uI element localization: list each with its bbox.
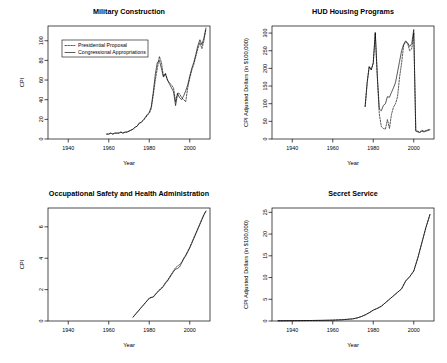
x-tick-label: 1960 — [103, 145, 115, 151]
y-tick-label: 300 — [261, 29, 267, 38]
panel-title: HUD Housing Programs — [312, 7, 394, 16]
series-line-presidential-proposal — [278, 214, 430, 320]
y-tick-label: 6 — [38, 225, 44, 228]
y-tick-label: 200 — [261, 64, 267, 73]
panel-title: Military Construction — [93, 7, 165, 16]
y-tick-label: 0 — [38, 138, 44, 141]
y-tick-label: 0 — [38, 319, 44, 322]
x-axis-label: Year — [347, 160, 359, 166]
y-tick-label: 150 — [261, 82, 267, 91]
y-tick-label: 250 — [261, 46, 267, 55]
y-tick-label: 4 — [38, 256, 44, 259]
x-tick-label: 2000 — [184, 145, 196, 151]
y-tick-label: 25 — [261, 209, 267, 215]
y-tick-label: 80 — [38, 57, 44, 63]
chart-military-construction: Military Construction1940196019802000020… — [0, 0, 224, 182]
panel-title: Occupational Safety and Health Administr… — [49, 189, 209, 198]
x-tick-label: 1960 — [326, 327, 338, 333]
panel-secret-service: Secret Service19401960198020000510152025… — [224, 182, 447, 363]
legend-label: Congressional Appropriations — [78, 49, 146, 55]
plot-area — [48, 208, 210, 321]
panel-military-construction: Military Construction1940196019802000020… — [0, 0, 224, 182]
y-tick-label: 10 — [261, 274, 267, 280]
x-tick-label: 1940 — [62, 145, 74, 151]
y-axis-label: CPI — [19, 77, 25, 87]
series-line-congressional-appropriations — [133, 211, 206, 317]
chart-hud-housing-programs: HUD Housing Programs19401960198020000501… — [224, 0, 447, 182]
series-line-congressional-appropriations — [365, 30, 430, 133]
x-tick-label: 1980 — [367, 327, 379, 333]
y-tick-label: 100 — [261, 99, 267, 108]
x-tick-label: 1980 — [367, 145, 379, 151]
y-tick-label: 40 — [38, 97, 44, 103]
plot-area — [272, 26, 434, 139]
y-tick-label: 20 — [261, 231, 267, 237]
panel-hud-housing-programs: HUD Housing Programs19401960198020000501… — [224, 0, 447, 182]
x-tick-label: 1940 — [286, 327, 298, 333]
legend-label: Presidential Proposal — [78, 42, 127, 48]
series-line-congressional-appropriations — [278, 214, 430, 320]
x-tick-label: 2000 — [407, 145, 419, 151]
y-tick-label: 5 — [261, 297, 267, 300]
panel-title: Secret Service — [328, 189, 378, 198]
plot-area — [272, 208, 434, 321]
x-tick-label: 1980 — [143, 327, 155, 333]
series-line-presidential-proposal — [365, 33, 430, 132]
x-tick-label: 2000 — [407, 327, 419, 333]
y-tick-label: 60 — [38, 77, 44, 83]
panel-osha: Occupational Safety and Health Administr… — [0, 182, 224, 363]
figure-panel-grid: Military Construction1940196019802000020… — [0, 0, 447, 363]
y-axis-label: CPI — [19, 259, 25, 269]
chart-secret-service: Secret Service19401960198020000510152025… — [224, 182, 447, 363]
x-tick-label: 1960 — [326, 145, 338, 151]
y-tick-label: 100 — [38, 36, 44, 45]
series-line-presidential-proposal — [133, 211, 206, 317]
x-tick-label: 1980 — [143, 145, 155, 151]
chart-occupational-safety-and-health-administration: Occupational Safety and Health Administr… — [0, 182, 224, 363]
y-tick-label: 50 — [261, 118, 267, 124]
y-tick-label: 15 — [261, 252, 267, 258]
y-tick-label: 0 — [261, 319, 267, 322]
x-tick-label: 1940 — [62, 327, 74, 333]
x-axis-label: Year — [123, 342, 135, 348]
y-axis-label: CPI Adjusted Dollars (in $100,000) — [243, 38, 249, 127]
x-tick-label: 2000 — [184, 327, 196, 333]
x-tick-label: 1960 — [103, 327, 115, 333]
y-axis-label: CPI Adjusted Dollars (in $100,000) — [243, 219, 249, 308]
y-tick-label: 20 — [38, 116, 44, 122]
x-axis-label: Year — [123, 160, 135, 166]
y-tick-label: 2 — [38, 288, 44, 291]
x-tick-label: 1940 — [286, 145, 298, 151]
y-tick-label: 0 — [261, 138, 267, 141]
x-axis-label: Year — [347, 342, 359, 348]
